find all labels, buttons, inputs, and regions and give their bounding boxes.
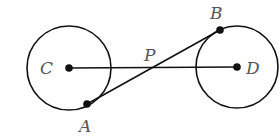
label-p: P xyxy=(143,45,156,65)
label-c: C xyxy=(40,58,53,78)
point-a xyxy=(83,100,91,108)
point-c xyxy=(65,64,73,72)
geometry-diagram: C D A B P xyxy=(0,0,280,139)
label-a: A xyxy=(77,116,91,136)
point-d xyxy=(233,63,241,71)
label-d: D xyxy=(245,58,260,78)
label-b: B xyxy=(209,3,223,23)
point-b xyxy=(216,26,224,34)
